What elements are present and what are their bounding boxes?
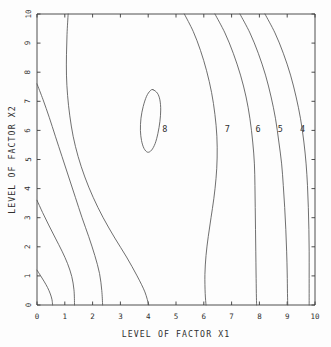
contour-label: 6 (255, 124, 260, 134)
y-tick-label: 1 (24, 274, 33, 279)
x-tick-label: 2 (90, 312, 95, 321)
y-tick-label: 8 (24, 69, 33, 74)
x-tick-label: 3 (118, 312, 123, 321)
contour-line (184, 14, 217, 305)
y-tick-label: 0 (24, 302, 33, 307)
contour-line (37, 270, 53, 305)
contour-level-labels: 87654 (162, 124, 305, 134)
y-tick-label: 4 (24, 186, 33, 191)
contour-line (140, 90, 160, 153)
contour-line (37, 200, 75, 305)
contour-line (240, 14, 288, 305)
y-tick-label: 6 (24, 128, 33, 133)
x-tick-label: 9 (285, 312, 290, 321)
y-tick-label: 10 (24, 9, 33, 19)
y-axis-tick-labels: 012345678910 (24, 9, 33, 307)
contour-label: 4 (300, 124, 305, 134)
y-tick-label: 5 (24, 157, 33, 162)
contour-line (215, 14, 257, 305)
x-axis-title: LEVEL OF FACTOR X1 (122, 329, 231, 339)
contour-label: 5 (278, 124, 283, 134)
x-tick-label: 8 (257, 312, 262, 321)
y-tick-label: 3 (24, 215, 33, 220)
contour-line (66, 14, 148, 305)
x-tick-label: 10 (310, 312, 320, 321)
y-tick-label: 9 (24, 41, 33, 46)
x-tick-label: 1 (63, 312, 68, 321)
x-tick-label: 0 (35, 312, 40, 321)
contour-lines (37, 14, 309, 305)
contour-plot-figure: 012345678910 012345678910 87654 LEVEL OF… (0, 0, 331, 347)
x-tick-label: 7 (229, 312, 234, 321)
contour-label: 8 (162, 124, 167, 134)
y-axis-title: LEVEL OF FACTOR X2 (7, 105, 17, 214)
chart-canvas: 012345678910 012345678910 87654 LEVEL OF… (0, 0, 331, 347)
y-tick-label: 2 (24, 245, 33, 250)
x-tick-label: 5 (174, 312, 179, 321)
x-tick-label: 4 (146, 312, 151, 321)
contour-label: 7 (225, 124, 230, 134)
x-tick-label: 6 (202, 312, 207, 321)
y-tick-label: 7 (24, 99, 33, 104)
x-axis-tick-labels: 012345678910 (35, 312, 320, 321)
